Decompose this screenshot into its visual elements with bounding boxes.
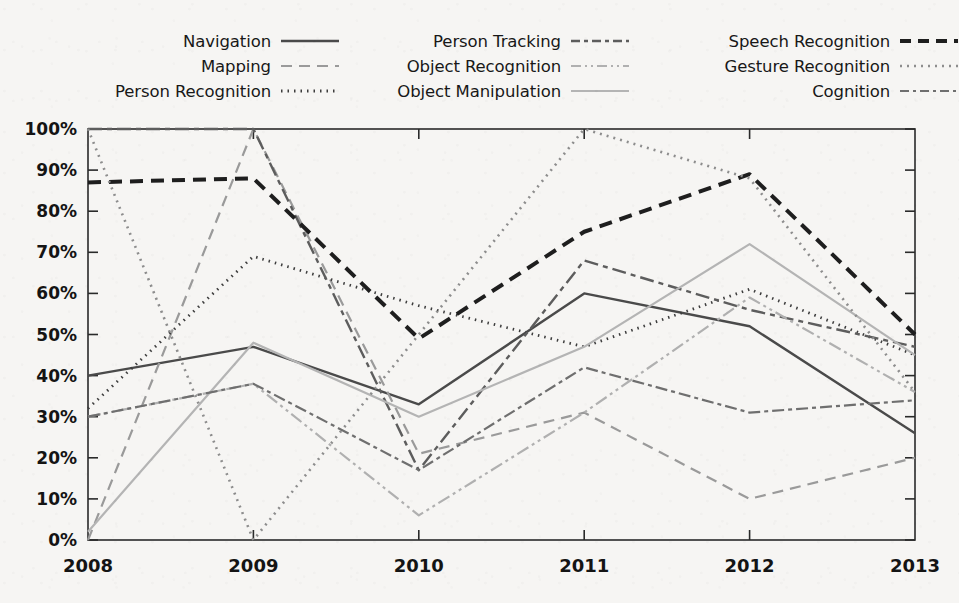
legend-label-navigation: Navigation [183, 32, 280, 51]
series-line-speech-recognition [88, 174, 915, 338]
legend-item-object-manipulation: Object Manipulation [340, 80, 630, 102]
legend-swatch-navigation [280, 34, 340, 48]
y-tick-label: 30% [36, 407, 77, 427]
series-line-object-recognition [88, 298, 915, 516]
legend-item-person-recognition: Person Recognition [0, 80, 340, 102]
legend-label-speech-recognition: Speech Recognition [729, 32, 899, 51]
legend-label-person-recognition: Person Recognition [115, 82, 280, 101]
y-axis: 0%10%20%30%40%50%60%70%80%90%100% [24, 119, 915, 550]
chart-legend: Navigation Mapping Person Recognition [0, 30, 959, 114]
legend-label-gesture-recognition: Gesture Recognition [724, 57, 899, 76]
legend-label-person-tracking: Person Tracking [433, 32, 570, 51]
legend-column-2: Person Tracking Object Recognition Objec… [340, 30, 630, 114]
y-tick-label: 70% [36, 242, 77, 262]
legend-item-mapping: Mapping [0, 55, 340, 77]
x-tick-label: 2008 [63, 555, 113, 576]
x-tick-label: 2010 [394, 555, 444, 576]
x-axis: 200820092010201120122013 [63, 129, 940, 576]
legend-column-1: Navigation Mapping Person Recognition [0, 30, 340, 114]
series-line-person-recognition [88, 256, 915, 408]
legend-swatch-mapping [280, 59, 340, 73]
legend-label-mapping: Mapping [201, 57, 280, 76]
legend-swatch-object-recognition [570, 59, 630, 73]
y-tick-label: 90% [36, 160, 77, 180]
y-tick-label: 100% [24, 119, 77, 139]
series-line-mapping [88, 129, 915, 540]
legend-item-navigation: Navigation [0, 30, 340, 52]
y-tick-label: 40% [36, 366, 77, 386]
plot-border [88, 129, 915, 540]
legend-swatch-speech-recognition [899, 34, 959, 48]
legend-item-person-tracking: Person Tracking [340, 30, 630, 52]
legend-column-3: Speech Recognition Gesture Recognition C… [630, 30, 959, 114]
legend-swatch-object-manipulation [570, 84, 630, 98]
legend-swatch-gesture-recognition [899, 59, 959, 73]
chart-figure: Navigation Mapping Person Recognition [0, 0, 959, 603]
legend-item-cognition: Cognition [630, 80, 959, 102]
series-line-person-tracking [88, 129, 915, 470]
legend-swatch-person-tracking [570, 34, 630, 48]
x-tick-label: 2009 [228, 555, 278, 576]
y-tick-label: 10% [36, 489, 77, 509]
legend-item-speech-recognition: Speech Recognition [630, 30, 959, 52]
legend-swatch-person-recognition [280, 84, 340, 98]
legend-label-cognition: Cognition [812, 82, 899, 101]
legend-label-object-manipulation: Object Manipulation [397, 82, 570, 101]
y-tick-label: 50% [36, 325, 77, 345]
x-tick-label: 2013 [890, 555, 940, 576]
y-tick-label: 0% [48, 530, 77, 550]
legend-item-object-recognition: Object Recognition [340, 55, 630, 77]
x-tick-label: 2011 [559, 555, 609, 576]
y-tick-label: 80% [36, 201, 77, 221]
series-line-navigation [88, 293, 915, 433]
legend-label-object-recognition: Object Recognition [407, 57, 570, 76]
legend-item-gesture-recognition: Gesture Recognition [630, 55, 959, 77]
legend-swatch-cognition [899, 84, 959, 98]
plot-frame [88, 129, 915, 540]
series-line-gesture-recognition [88, 129, 915, 540]
x-tick-label: 2012 [725, 555, 775, 576]
y-tick-label: 20% [36, 448, 77, 468]
series-lines [88, 129, 915, 540]
y-tick-label: 60% [36, 283, 77, 303]
